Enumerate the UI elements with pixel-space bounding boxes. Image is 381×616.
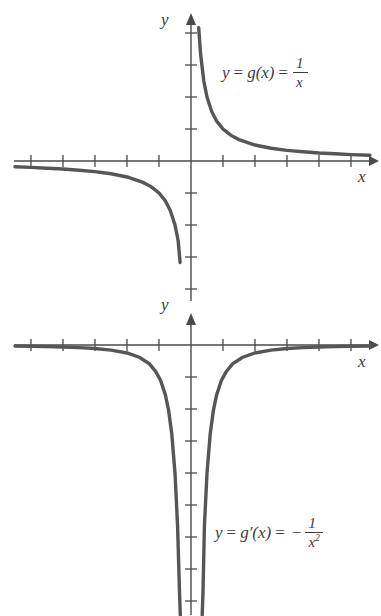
top-eq-denominator: x bbox=[293, 73, 306, 90]
bottom-eq-sign-2: = bbox=[271, 524, 289, 541]
top-equation-label: y = g(x) = 1 x bbox=[222, 54, 309, 91]
bottom-eq-fraction: 1 x2 bbox=[305, 514, 323, 551]
bottom-eq-denominator-exponent: 2 bbox=[315, 532, 320, 543]
top-x-axis-arrow bbox=[369, 156, 379, 166]
top-eq-function: g(x) bbox=[247, 64, 274, 81]
top-y-axis-arrow bbox=[186, 13, 196, 25]
top-x-axis-label: x bbox=[358, 167, 366, 187]
bottom-equation-label: y = g ′ (x) = − 1 x2 bbox=[215, 514, 324, 551]
top-y-axis-label: y bbox=[161, 10, 169, 30]
bottom-eq-minus-sign: − bbox=[289, 524, 305, 541]
bottom-eq-function: g bbox=[240, 524, 249, 541]
top-curve-negative-branch bbox=[15, 167, 180, 263]
bottom-eq-sign-1: = bbox=[223, 524, 241, 541]
top-eq-fraction: 1 x bbox=[293, 54, 308, 91]
top-eq-numerator: 1 bbox=[293, 55, 307, 71]
top-eq-lhs: y bbox=[222, 64, 230, 81]
top-eq-sign-1: = bbox=[230, 64, 248, 81]
bottom-eq-argument: (x) bbox=[252, 524, 271, 541]
bottom-plot-svg bbox=[0, 306, 381, 616]
bottom-eq-denominator: x2 bbox=[305, 533, 323, 550]
bottom-y-axis-label: y bbox=[161, 295, 169, 315]
top-eq-sign-2: = bbox=[275, 64, 293, 81]
bottom-curve-left-branch bbox=[15, 346, 180, 615]
top-curve-positive-branch bbox=[199, 28, 370, 156]
bottom-x-axis-label: x bbox=[358, 352, 366, 372]
bottom-eq-numerator: 1 bbox=[305, 515, 319, 531]
figure-container: y x y x y = g(x) = 1 x y = g ′ (x) = − 1 bbox=[0, 0, 381, 616]
bottom-curve-right-branch bbox=[202, 346, 370, 615]
bottom-y-axis-arrow bbox=[186, 313, 196, 325]
top-plot-svg bbox=[0, 0, 381, 302]
bottom-eq-lhs: y bbox=[215, 524, 223, 541]
